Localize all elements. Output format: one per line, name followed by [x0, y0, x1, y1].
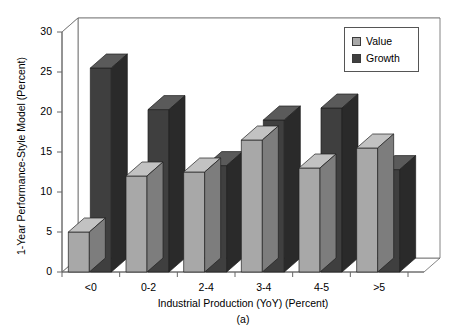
x-tick-label: <0 [61, 281, 121, 293]
figure-caption: (a) [62, 313, 424, 325]
x-axis-title: Industrial Production (YoY) (Percent) [62, 297, 424, 309]
y-tick-label: 10 [26, 185, 52, 197]
legend-label-value: Value [366, 36, 392, 47]
x-tick-label: 4-5 [292, 281, 352, 293]
x-tick-label: 0-2 [119, 281, 179, 293]
legend-label-growth: Growth [366, 53, 400, 64]
x-tick-label: >5 [349, 281, 409, 293]
y-tick-label: 20 [26, 105, 52, 117]
legend-entry-growth: Growth [352, 50, 418, 67]
y-tick-label: 0 [26, 265, 52, 277]
y-tick-label: 5 [26, 225, 52, 237]
y-tick-label: 30 [26, 25, 52, 37]
x-tick-label: 3-4 [234, 281, 294, 293]
legend-entry-value: Value [352, 33, 418, 50]
y-tick-label: 15 [26, 145, 52, 157]
y-tick-label: 25 [26, 65, 52, 77]
dark-gray-swatch-icon [352, 54, 361, 63]
x-tick-label: 2-4 [176, 281, 236, 293]
bar-chart-figure: 1-Year Performance-Style Model (Percent)… [0, 0, 453, 333]
light-gray-swatch-icon [352, 37, 361, 46]
chart-legend: Value Growth [344, 27, 419, 72]
